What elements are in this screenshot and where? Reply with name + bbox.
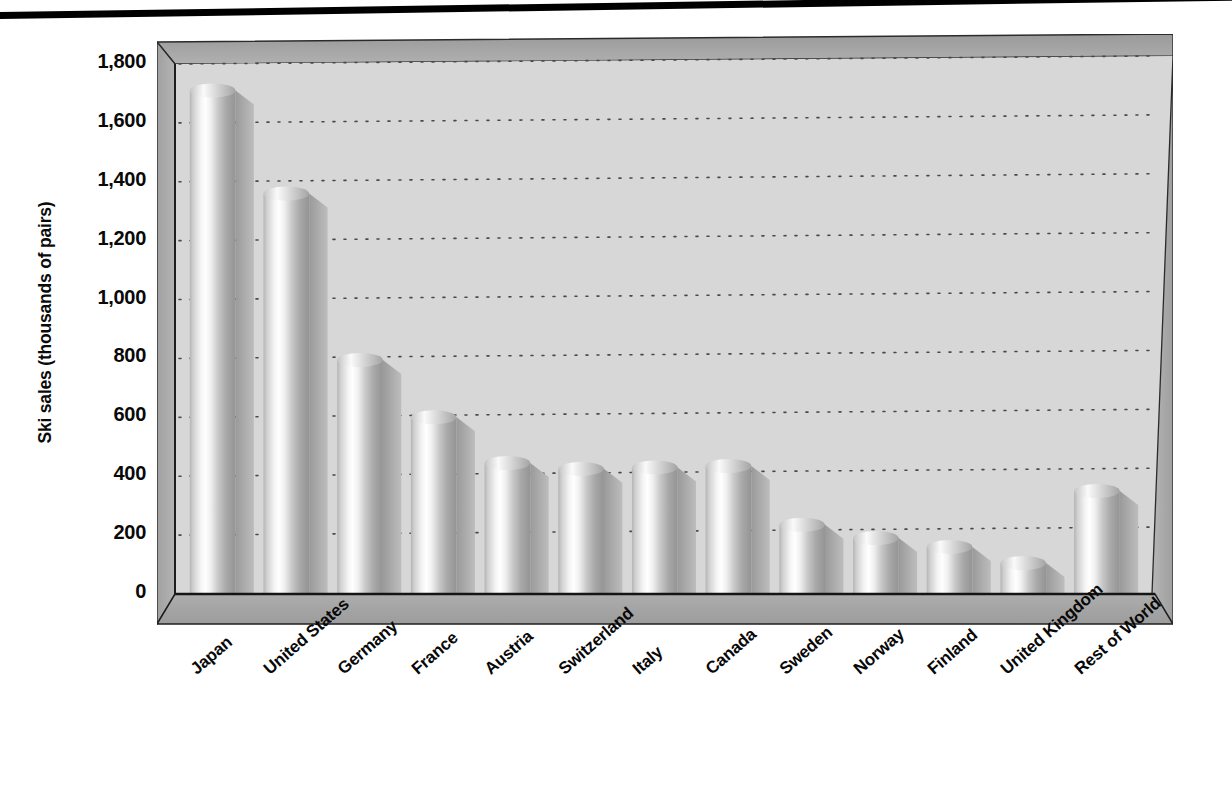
y-tick-label: 1,200	[36, 227, 146, 250]
bar-side-face	[383, 360, 401, 594]
bar[interactable]	[558, 462, 622, 594]
bar-top-cap	[779, 518, 825, 532]
bar-side-face	[457, 417, 475, 594]
bar-body	[485, 463, 531, 594]
y-tick-label: 400	[36, 462, 146, 485]
y-tick-label: 0	[36, 580, 146, 603]
bar-body	[779, 525, 825, 594]
x-tick-label: Norway	[850, 624, 909, 679]
bar[interactable]	[485, 456, 549, 594]
bar-top-cap	[337, 353, 383, 367]
bar-top-cap	[706, 459, 752, 473]
y-tick-label: 1,600	[36, 109, 146, 132]
y-tick-label: 200	[36, 521, 146, 544]
plot-area	[157, 34, 1173, 626]
bar-top-cap	[853, 531, 899, 545]
plot-svg	[157, 34, 1173, 626]
bar-top-cap	[632, 460, 678, 474]
bar-side-face	[235, 91, 253, 595]
x-tick-label: France	[408, 628, 462, 679]
y-tick-label: 1,000	[36, 286, 146, 309]
bar-side-face	[1120, 491, 1138, 594]
bar[interactable]	[411, 410, 475, 594]
bar-body	[632, 467, 678, 594]
bar[interactable]	[632, 460, 696, 594]
bar-body	[337, 360, 383, 594]
bar[interactable]	[263, 187, 327, 594]
bar-body	[190, 91, 236, 595]
x-tick-label: Austria	[481, 626, 537, 679]
bar[interactable]	[337, 353, 401, 594]
bar[interactable]	[1074, 484, 1138, 594]
bar-top-cap	[1074, 484, 1120, 498]
bar-body	[263, 194, 309, 594]
bar-side-face	[751, 466, 769, 594]
bar-top-cap	[190, 84, 236, 98]
bar-side-face	[678, 467, 696, 594]
y-tick-label: 800	[36, 344, 146, 367]
x-tick-label: Japan	[187, 632, 236, 679]
bar-side-face	[530, 463, 548, 594]
x-tick-label: Sweden	[776, 623, 837, 679]
bar-body	[411, 417, 457, 594]
bar-top-cap	[927, 540, 973, 554]
bar-side-face	[604, 469, 622, 594]
y-tick-label: 1,400	[36, 168, 146, 191]
bar[interactable]	[190, 84, 254, 595]
bar-body	[853, 538, 899, 594]
plot-floor	[157, 594, 1173, 624]
bar-body	[558, 469, 604, 594]
bar-top-cap	[411, 410, 457, 424]
x-tick-label: Canada	[702, 624, 761, 679]
y-tick-label: 600	[36, 403, 146, 426]
bar-top-cap	[263, 187, 309, 201]
bar-body	[1074, 491, 1120, 594]
bar[interactable]	[706, 459, 770, 594]
y-tick-label: 1,800	[36, 50, 146, 73]
bar-top-cap	[485, 456, 531, 470]
bar-body	[706, 466, 752, 594]
x-tick-label: Italy	[629, 642, 667, 679]
bar-body	[927, 547, 973, 594]
bar-side-face	[309, 194, 327, 594]
bar-top-cap	[1000, 556, 1046, 570]
bar-top-cap	[558, 462, 604, 476]
y-axis-tick-labels: 1,8001,6001,4001,2001,0008006004002000	[28, 0, 146, 795]
x-tick-label: Finland	[924, 625, 982, 679]
